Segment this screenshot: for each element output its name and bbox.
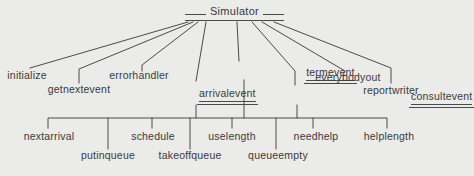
node-uselength: uselength: [208, 131, 255, 142]
connector-simulator-errorhandler: [142, 22, 198, 71]
simulator-label: Simulator: [206, 5, 263, 18]
connector-simulator-consultevent: [252, 22, 295, 85]
bus-line: [48, 118, 387, 128]
node-takeoffqueue: takeoffqueue: [159, 150, 222, 161]
node-everybodyout: everybodyout: [315, 72, 380, 83]
simulator-box-bottom-line: [185, 20, 284, 21]
node-simulator: Simulator: [185, 5, 284, 21]
node-queueempty: queueempty: [248, 150, 308, 161]
node-nextarrival: nextarrival: [24, 131, 75, 142]
simulator-box-right-line: [263, 14, 284, 15]
connector-simulator-initialize: [30, 22, 188, 68]
simulator-box-left-line: [185, 14, 206, 15]
node-reportwriter: reportwriter: [363, 85, 419, 96]
node-consultevent: consultevent: [411, 90, 472, 105]
node-arrivalevent: arrivalevent: [199, 87, 256, 102]
node-putinqueue: putinqueue: [81, 150, 135, 161]
node-helplength: helplength: [364, 131, 414, 142]
connector-simulator-everybodyout: [262, 22, 345, 71]
connector-simulator-termevent: [237, 22, 239, 61]
node-initialize: initialize: [7, 70, 46, 81]
node-errorhandler: errorhandler: [109, 70, 169, 81]
connector-simulator-arrivalevent: [196, 22, 206, 81]
node-getnextevent: getnextevent: [48, 84, 111, 95]
node-schedule: schedule: [131, 131, 175, 142]
node-needhelp: needhelp: [294, 131, 339, 142]
